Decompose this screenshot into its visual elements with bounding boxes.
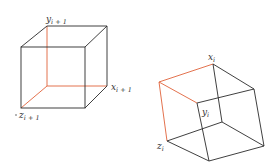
front-face-left [21, 47, 85, 108]
z-axis-edge-left [21, 86, 47, 108]
label-x-i-plus-1: xi + 1 [111, 82, 132, 94]
label-y-i: yi [201, 107, 209, 119]
cube-transform-diagram: yi + 1 xi + 1 zi + 1 xi yi zi [0, 0, 279, 168]
cube-right-labels: xi yi zi [156, 52, 215, 153]
origin-dot [15, 114, 16, 115]
cube-left [21, 26, 107, 108]
label-x-i: xi [208, 52, 215, 64]
cube-right [159, 64, 264, 161]
label-z-i: zi [156, 141, 164, 153]
z-axis-edge-right [159, 82, 167, 141]
y-axis-edge-right [159, 82, 197, 103]
label-z-i-plus-1: zi + 1 [18, 110, 40, 122]
cube-left-labels: yi + 1 xi + 1 zi + 1 [15, 14, 132, 122]
label-y-i-plus-1: yi + 1 [45, 14, 67, 26]
x-axis-edge-right [159, 64, 213, 82]
